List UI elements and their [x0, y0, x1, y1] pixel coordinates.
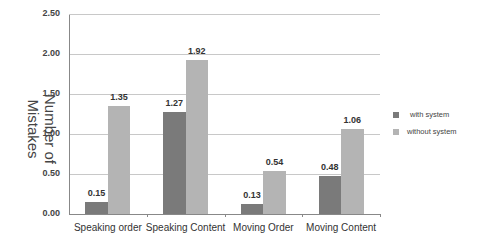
legend-swatch — [393, 112, 399, 118]
data-label: 0.54 — [255, 157, 295, 167]
data-label: 1.92 — [177, 46, 217, 56]
x-tick — [147, 214, 148, 217]
bar-without-system — [263, 171, 286, 214]
category-label: Speaking order — [63, 222, 153, 233]
category-label: Moving Order — [218, 222, 308, 233]
y-tick-label: 0.50 — [22, 168, 60, 178]
legend-swatch — [393, 129, 399, 135]
x-tick — [225, 214, 226, 217]
data-label: 1.06 — [332, 115, 372, 125]
y-tick-label: 1.50 — [22, 88, 60, 98]
bar-with-system — [319, 176, 342, 214]
bar-without-system — [341, 129, 364, 214]
gridline — [69, 14, 380, 15]
y-tick-label: 2.00 — [22, 48, 60, 58]
x-tick — [380, 214, 381, 217]
bar-with-system — [241, 204, 264, 214]
data-label: 1.35 — [99, 92, 139, 102]
bar-chart: Number of Mistakes 0.000.501.001.502.002… — [0, 0, 480, 247]
legend-label: without system — [407, 127, 457, 136]
legend-label: with system — [410, 110, 449, 119]
y-axis — [69, 15, 70, 215]
x-tick — [302, 214, 303, 217]
y-tick-label: 2.50 — [22, 8, 60, 18]
bar-with-system — [163, 112, 186, 214]
gridline — [69, 54, 380, 55]
category-label: Moving Content — [296, 222, 386, 233]
category-label: Speaking Content — [141, 222, 231, 233]
bar-with-system — [85, 202, 108, 214]
y-tick-label: 1.00 — [22, 128, 60, 138]
bar-without-system — [186, 60, 209, 214]
bar-without-system — [108, 106, 131, 214]
y-tick-label: 0.00 — [22, 208, 60, 218]
